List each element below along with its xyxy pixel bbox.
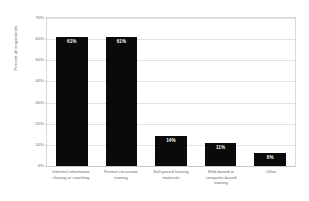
x-axis-category-label: Informal informationsharing or coaching: [46, 169, 96, 180]
bar[interactable]: 61%: [106, 37, 138, 166]
y-tick-label: 40%: [35, 79, 44, 83]
bar-value-label: 61%: [56, 40, 88, 45]
bar-slot: 11%: [196, 18, 246, 166]
plot-area: 0%10%20%30%40%50%60%70% 61%61%14%11%6%: [46, 17, 296, 167]
x-axis-category-line: materials: [146, 175, 196, 181]
y-tick-label: 30%: [35, 100, 44, 104]
bar-slot: 6%: [245, 18, 295, 166]
x-axis-category-label: Self-paced trainingmaterials: [146, 169, 196, 180]
bar[interactable]: 14%: [155, 136, 187, 166]
y-tick-label: 0%: [38, 164, 44, 168]
x-axis-category-line: Informal information: [46, 169, 96, 175]
bar-chart: Percent of respondents 0%10%20%30%40%50%…: [0, 0, 309, 201]
y-tick-label: 50%: [35, 58, 44, 62]
bar[interactable]: 11%: [205, 143, 237, 166]
y-tick-label: 20%: [35, 122, 44, 126]
x-axis-category-line: training: [196, 180, 246, 186]
bar-value-label: 14%: [155, 139, 187, 144]
x-axis-category-label: Formal classroomtraining: [96, 169, 146, 180]
bar-value-label: 61%: [106, 40, 138, 45]
bar-slot: 61%: [97, 18, 147, 166]
bars-group: 61%61%14%11%6%: [47, 18, 295, 166]
y-tick-label: 70%: [35, 16, 44, 20]
y-tick-label: 10%: [35, 143, 44, 147]
x-axis-category-label: Web-based orcomputer-basedtraining: [196, 169, 246, 186]
bar-slot: 61%: [47, 18, 97, 166]
bar-value-label: 6%: [254, 156, 286, 161]
x-axis-category-line: Self-paced training: [146, 169, 196, 175]
x-axis-category-label: Other: [246, 169, 296, 175]
gridline: [47, 166, 295, 167]
x-axis-labels: Informal informationsharing or coachingF…: [46, 169, 296, 201]
y-tick-label: 60%: [35, 37, 44, 41]
x-axis-category-line: Other: [246, 169, 296, 175]
x-axis-category-line: training: [96, 175, 146, 181]
bar-slot: 14%: [146, 18, 196, 166]
bar[interactable]: 61%: [56, 37, 88, 166]
bar-value-label: 11%: [205, 146, 237, 151]
bar[interactable]: 6%: [254, 153, 286, 166]
y-axis-title: Percent of respondents: [9, 0, 23, 123]
x-axis-category-line: sharing or coaching: [46, 175, 96, 181]
